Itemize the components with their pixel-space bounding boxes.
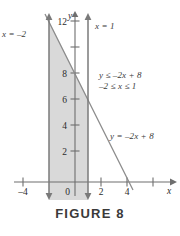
y-tick-label-0: 0 bbox=[65, 187, 70, 197]
y-tick-label-8: 8 bbox=[62, 69, 67, 79]
label-line-equation: y = –2x + 8 bbox=[110, 131, 154, 142]
boundary-1-up-arrow-icon bbox=[85, 13, 92, 20]
y-tick-label-4: 4 bbox=[62, 121, 67, 131]
shaded-solution-region bbox=[49, 21, 88, 200]
figure-caption: FIGURE 8 bbox=[0, 206, 180, 221]
x-tick-label--4: –4 bbox=[17, 187, 28, 197]
label-inequality-line2: –2 ≤ x ≤ 1 bbox=[99, 81, 142, 92]
x-tick-label-4: 4 bbox=[125, 187, 130, 197]
label-right-boundary: x = 1 bbox=[95, 21, 115, 32]
y-tick-label-6: 6 bbox=[62, 95, 67, 105]
y-tick-label-12: 12 bbox=[58, 17, 68, 27]
x-axis-label: x bbox=[166, 186, 172, 196]
label-inequality-line1: y ≤ –2x + 8 bbox=[99, 70, 142, 81]
coordinate-plane-plot: 12 8 6 4 2 0 –4 2 4 x y bbox=[0, 0, 180, 200]
figure-container: 12 8 6 4 2 0 –4 2 4 x y x = –2 x = 1 y ≤… bbox=[0, 0, 180, 236]
label-inequality-system: y ≤ –2x + 8 –2 ≤ x ≤ 1 bbox=[99, 70, 142, 93]
x-tick-label-2: 2 bbox=[99, 187, 104, 197]
y-tick-label-2: 2 bbox=[62, 147, 67, 157]
y-axis-label: y bbox=[67, 11, 73, 21]
y-axis-arrow-icon bbox=[72, 11, 79, 17]
label-left-boundary: x = –2 bbox=[2, 29, 26, 40]
x-axis-arrow-icon bbox=[170, 179, 177, 186]
